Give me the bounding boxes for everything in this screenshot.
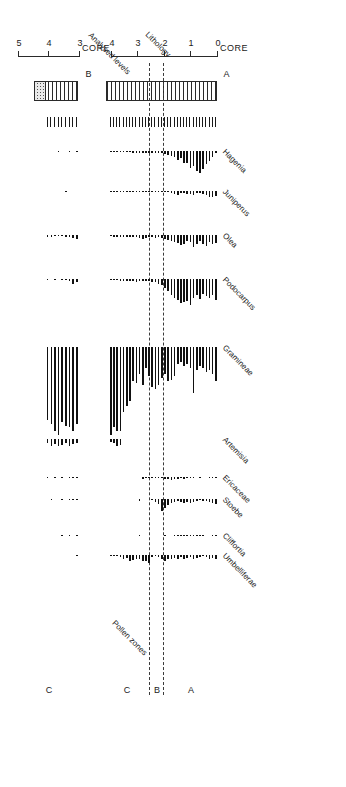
pollen-diagram-page: 01234COREAABC345COREBCHageniaJuniperusOl… [0,0,346,787]
taxa-bar [76,555,78,556]
pollen-diagram-figure: 01234COREAABC345COREBCHageniaJuniperusOl… [0,0,346,787]
taxa-curve-core-b-umbelliferae [0,0,346,787]
